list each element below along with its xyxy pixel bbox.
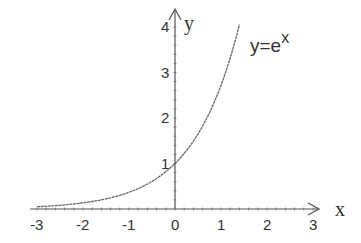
exp-curve bbox=[37, 25, 239, 207]
y-tick-label: 2 bbox=[161, 109, 169, 126]
x-tick-label: 3 bbox=[309, 216, 317, 233]
y-tick-labels: 1234 bbox=[161, 18, 169, 172]
function-label: y=ex bbox=[250, 29, 289, 56]
exponential-chart: -3-2-10123 1234 x y y=ex bbox=[0, 0, 361, 243]
x-tick-label: 2 bbox=[263, 216, 271, 233]
y-tick-label: 3 bbox=[161, 64, 169, 81]
y-tick-label: 4 bbox=[161, 18, 169, 35]
x-tick-labels: -3-2-10123 bbox=[30, 216, 317, 233]
x-tick-label: -1 bbox=[122, 216, 135, 233]
x-tick-label: 0 bbox=[171, 216, 179, 233]
x-axis-label: x bbox=[335, 198, 345, 220]
y-tick-label: 1 bbox=[161, 155, 169, 172]
x-tick-label: -2 bbox=[76, 216, 89, 233]
x-tick-label: -3 bbox=[30, 216, 43, 233]
y-axis-label: y bbox=[184, 12, 194, 35]
x-tick-label: 1 bbox=[217, 216, 225, 233]
